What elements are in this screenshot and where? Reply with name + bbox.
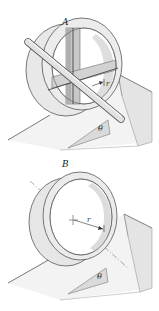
figure-label-b: B bbox=[61, 159, 69, 169]
figure-a: θ r bbox=[8, 17, 152, 150]
angle-label-a: θ bbox=[98, 124, 103, 133]
figure-label-a: A bbox=[61, 17, 69, 27]
angle-label-b: θ bbox=[97, 272, 102, 281]
diagram-canvas: θ r bbox=[0, 0, 159, 311]
figure-b: θ r B bbox=[8, 159, 152, 300]
